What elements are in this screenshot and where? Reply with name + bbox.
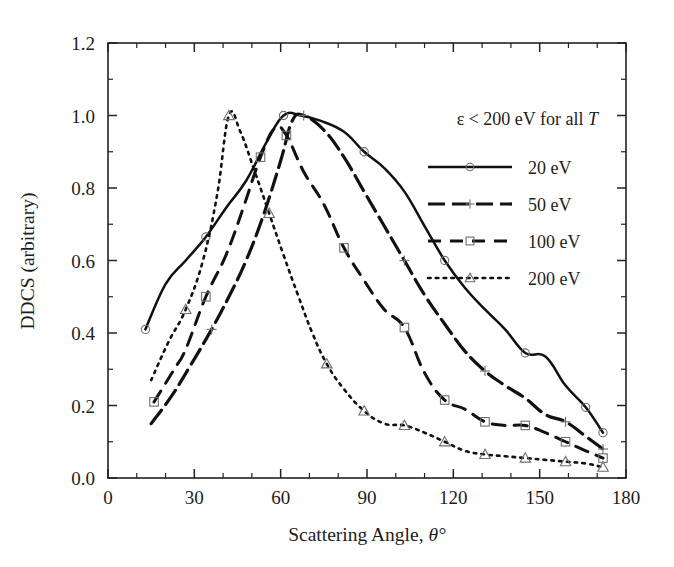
figure-container: 0306090120150180 0.00.20.40.60.81.01.2 S… xyxy=(0,0,674,567)
x-tick-label: 90 xyxy=(358,487,377,508)
x-tick-label: 180 xyxy=(612,487,641,508)
y-tick-label: 0.8 xyxy=(71,178,95,199)
x-tick-label: 0 xyxy=(103,487,113,508)
legend-label: 20 eV xyxy=(528,158,572,178)
legend-label: 200 eV xyxy=(528,269,581,289)
y-tick-label: 1.2 xyxy=(71,33,95,54)
y-tick-label: 0.2 xyxy=(71,396,95,417)
y-tick-label: 0.6 xyxy=(71,251,95,272)
y-axis-title: DDCS (arbitrary) xyxy=(17,192,39,329)
x-tick-label: 120 xyxy=(439,487,468,508)
legend-label: 50 eV xyxy=(528,195,572,215)
x-axis-title: Scattering Angle, θ° xyxy=(288,524,446,545)
legend-label: 100 eV xyxy=(528,232,581,252)
x-tick-label: 60 xyxy=(271,487,290,508)
legend-annotation: ε < 200 eV for all T xyxy=(457,109,600,129)
x-tick-label: 150 xyxy=(525,487,554,508)
ddcs-scattering-angle-chart: 0306090120150180 0.00.20.40.60.81.01.2 S… xyxy=(0,0,674,567)
y-tick-label: 1.0 xyxy=(71,106,95,127)
y-tick-label: 0.4 xyxy=(71,323,95,344)
x-tick-label: 30 xyxy=(185,487,204,508)
y-tick-label: 0.0 xyxy=(71,468,95,489)
